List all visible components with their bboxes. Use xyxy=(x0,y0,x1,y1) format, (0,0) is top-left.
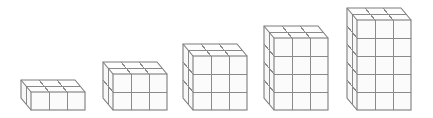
prism-diagram xyxy=(0,0,433,118)
prism-2 xyxy=(103,62,167,110)
front-face xyxy=(193,56,247,110)
front-face xyxy=(31,92,85,110)
prism-5 xyxy=(347,8,411,110)
prism-4 xyxy=(264,26,328,110)
front-face xyxy=(357,20,411,110)
cube-prism-sequence: Sequence of five rectangular prisms buil… xyxy=(0,0,433,118)
prism-1 xyxy=(21,80,85,110)
prism-3 xyxy=(183,44,247,110)
